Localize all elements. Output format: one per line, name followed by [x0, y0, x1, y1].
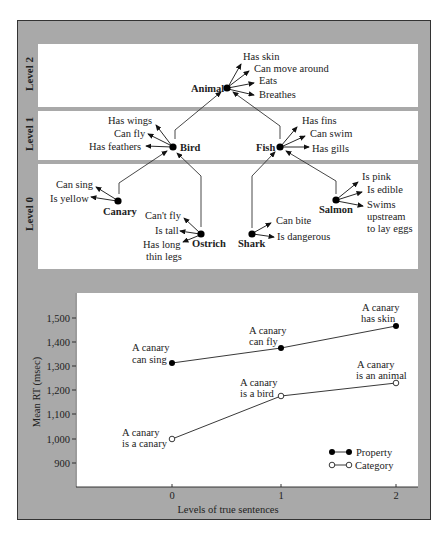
svg-text:1,100: 1,100: [46, 409, 70, 420]
node-ostrich-dot: [197, 230, 204, 237]
prop-salmon-0: Is pink: [362, 171, 392, 182]
annot-category-1a: A canary: [240, 377, 278, 388]
prop-canary-0: Can sing: [56, 179, 94, 190]
prop-animal-0: Has skin: [243, 51, 280, 62]
node-fish-dot: [276, 143, 283, 150]
prop-salmon-1: Is edible: [367, 184, 403, 195]
node-canary-dot: [114, 197, 121, 204]
prop-ostrich-1: Is tall: [155, 225, 179, 236]
y-axis-title: Mean RT (msec): [31, 356, 43, 427]
node-bird-label: Bird: [180, 142, 201, 153]
annot-category-0a: A canary: [122, 427, 160, 438]
prop-bird-0: Has wings: [108, 115, 152, 126]
svg-text:1,400: 1,400: [46, 337, 70, 348]
legend-category-label: Category: [355, 460, 394, 471]
annot-category-1b: is a bird: [240, 388, 275, 399]
annot-category-2a: A canary: [357, 359, 395, 370]
node-shark-label: Shark: [238, 238, 266, 249]
y-tick-labels: 1,500 1,400 1,300 1,200 1,100 1,000 900: [46, 313, 70, 469]
annot-property-0a: A canary: [132, 342, 170, 353]
node-canary-label: Canary: [103, 206, 138, 217]
node-shark-dot: [248, 230, 255, 237]
svg-text:1,300: 1,300: [46, 361, 70, 372]
annot-property-2b: has skin: [361, 313, 396, 324]
annot-property-2a: A canary: [362, 302, 400, 313]
svg-text:0: 0: [169, 490, 174, 501]
prop-bird-1: Can fly: [114, 128, 146, 139]
x-axis-title: Levels of true sentences: [177, 504, 278, 515]
annot-property-1a: A canary: [249, 325, 287, 336]
figure-svg: Animal Bird Fish Canary Ostrich Shark Sa…: [0, 0, 447, 534]
svg-text:2: 2: [393, 490, 398, 501]
prop-fish-0: Has fins: [302, 115, 337, 126]
prop-bird-2: Has feathers: [89, 141, 141, 152]
prop-ostrich-0: Can't fly: [145, 210, 182, 221]
prop-shark-1: Is dangerous: [277, 231, 330, 242]
prop-ostrich-2a: Has long: [143, 239, 181, 250]
annot-property-1b: can fly: [249, 336, 279, 347]
hierarchy-edges: [119, 92, 336, 228]
annot-category-2b: is an animal: [356, 370, 407, 381]
annot-category-0b: is a canary: [122, 438, 168, 449]
prop-fish-2: Has gills: [312, 143, 349, 154]
annot-property-0b: can sing: [132, 354, 167, 365]
prop-animal-1: Can move around: [254, 63, 329, 74]
legend-property-label: Property: [356, 447, 393, 458]
node-ostrich-label: Ostrich: [192, 238, 226, 249]
prop-ostrich-2b: thin legs: [146, 251, 182, 262]
chart-legend: Property Category: [329, 447, 394, 471]
series-category-markers: [169, 380, 399, 442]
node-animal-dot: [223, 84, 230, 91]
node-salmon-label: Salmon: [319, 204, 353, 215]
svg-text:1,000: 1,000: [46, 434, 70, 445]
x-tick-labels: 0 1 2: [169, 490, 398, 501]
node-salmon-dot: [332, 196, 339, 203]
prop-shark-0: Can bite: [276, 215, 312, 226]
prop-salmon-2b: upstream: [367, 211, 406, 222]
series-category-line: [172, 383, 396, 439]
node-bird-dot: [169, 143, 176, 150]
prop-canary-1: Is yellow: [50, 193, 89, 204]
prop-fish-1: Can swim: [310, 128, 352, 139]
prop-salmon-2c: to lay eggs: [367, 223, 413, 234]
prop-salmon-2a: Swims: [367, 199, 396, 210]
prop-animal-3: Breathes: [259, 89, 296, 100]
svg-text:1,200: 1,200: [46, 385, 70, 396]
node-fish-label: Fish: [256, 142, 275, 153]
svg-text:900: 900: [54, 458, 70, 469]
prop-animal-2: Eats: [259, 75, 277, 86]
svg-text:1: 1: [278, 490, 283, 501]
node-animal-label: Animal: [191, 83, 224, 94]
svg-text:1,500: 1,500: [46, 313, 70, 324]
